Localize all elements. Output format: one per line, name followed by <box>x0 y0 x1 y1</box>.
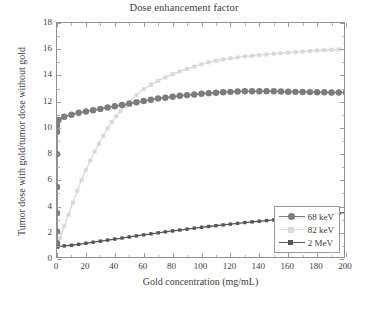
data-point <box>80 178 84 182</box>
data-point <box>106 127 110 131</box>
data-point <box>293 50 297 54</box>
axis-tick <box>57 259 61 260</box>
data-point <box>307 89 313 95</box>
x-tick-label: 80 <box>167 261 176 271</box>
axis-tick <box>216 23 217 26</box>
data-point <box>242 88 248 94</box>
y-tick-label: 2 <box>30 227 52 237</box>
axis-tick <box>57 246 60 247</box>
axis-tick <box>340 23 344 24</box>
axis-tick <box>340 180 344 181</box>
data-point <box>126 100 132 106</box>
axis-tick <box>317 253 318 257</box>
data-point <box>90 107 96 113</box>
data-point <box>148 97 154 103</box>
data-point <box>142 233 145 236</box>
axis-tick <box>245 23 246 26</box>
y-tick-label: 18 <box>30 17 52 27</box>
data-point <box>178 70 182 74</box>
x-tick-label: 140 <box>252 261 266 271</box>
data-point <box>221 223 224 226</box>
x-tick-label: 120 <box>223 261 237 271</box>
y-axis-title: Tumor dose with gold/tumor dose without … <box>16 17 27 267</box>
data-point <box>292 89 298 95</box>
axis-tick <box>57 128 61 129</box>
data-point <box>112 103 118 109</box>
data-point <box>257 53 261 57</box>
data-point <box>93 149 97 153</box>
data-point <box>169 93 175 99</box>
axis-tick <box>340 75 344 76</box>
data-point <box>63 244 66 247</box>
data-point <box>99 239 102 242</box>
axis-tick <box>173 23 174 27</box>
data-point <box>336 89 342 95</box>
y-tick-label: 16 <box>30 43 52 53</box>
data-point <box>106 238 109 241</box>
axis-tick <box>342 115 345 116</box>
y-tick-label: 10 <box>30 122 52 132</box>
axis-tick <box>144 253 145 257</box>
axis-tick <box>342 62 345 63</box>
data-point <box>229 222 232 225</box>
y-tick-label: 6 <box>30 174 52 184</box>
x-tick-label: 40 <box>109 261 118 271</box>
axis-tick <box>274 23 275 26</box>
data-point <box>83 108 89 114</box>
axis-tick <box>340 259 344 260</box>
axis-tick <box>274 255 275 258</box>
x-tick-label: 0 <box>54 261 59 271</box>
data-point <box>62 224 66 228</box>
data-point <box>119 102 125 108</box>
axis-tick <box>303 23 304 26</box>
data-point <box>133 99 139 105</box>
axis-tick <box>259 253 260 257</box>
data-point <box>220 89 226 95</box>
data-point <box>84 242 87 245</box>
axis-tick <box>57 207 61 208</box>
axis-tick <box>303 255 304 258</box>
axis-tick <box>317 23 318 27</box>
axis-tick <box>129 23 130 26</box>
data-point <box>110 120 114 124</box>
axis-tick <box>342 36 345 37</box>
data-point <box>343 89 344 95</box>
axis-tick <box>288 23 289 27</box>
data-point <box>171 72 175 76</box>
axis-tick <box>57 253 58 257</box>
axis-tick <box>71 255 72 258</box>
data-point <box>61 114 67 120</box>
chart-root: Dose enhancement factor 68 keV 82 keV <box>0 0 368 309</box>
axis-tick <box>342 167 345 168</box>
data-point <box>156 231 159 234</box>
legend-label-68kev: 68 keV <box>305 212 334 222</box>
data-point <box>191 91 197 97</box>
data-point <box>178 228 181 231</box>
chart-title: Dose enhancement factor <box>0 2 368 13</box>
data-point <box>113 237 116 240</box>
axis-tick <box>230 253 231 257</box>
data-point <box>155 95 161 101</box>
legend-item-82kev: 82 keV <box>279 223 334 236</box>
data-point <box>128 235 131 238</box>
data-point <box>243 54 247 58</box>
axis-tick <box>57 233 61 234</box>
data-point <box>272 52 276 56</box>
legend-item-68kev: 68 keV <box>279 210 334 223</box>
data-point <box>88 159 92 163</box>
axis-tick <box>71 23 72 26</box>
axis-tick <box>86 253 87 257</box>
data-point <box>200 62 204 66</box>
data-point <box>97 142 101 146</box>
data-point <box>299 89 305 95</box>
axis-tick <box>158 255 159 258</box>
data-point <box>234 88 240 94</box>
data-point <box>149 232 152 235</box>
data-point <box>141 98 147 104</box>
axis-tick <box>57 89 60 90</box>
legend-item-2mev: 2 MeV <box>279 236 334 249</box>
legend-label-2mev: 2 MeV <box>305 238 333 248</box>
y-tick-label: 8 <box>30 148 52 158</box>
axis-tick <box>332 255 333 258</box>
axis-tick <box>57 180 61 181</box>
